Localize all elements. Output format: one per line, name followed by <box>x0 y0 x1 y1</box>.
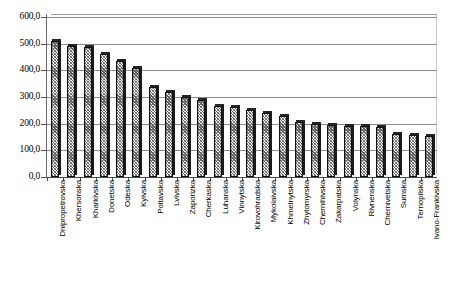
y-tick-label: 400,0 <box>0 64 40 74</box>
bar-body <box>149 87 157 177</box>
bar <box>230 107 238 177</box>
bar-body <box>246 110 254 177</box>
bar <box>132 68 140 177</box>
bar-top-face <box>426 134 435 136</box>
bars-layer <box>47 17 437 177</box>
bar <box>425 136 433 177</box>
bar-top-face <box>393 132 402 134</box>
bar-side-face <box>368 124 370 175</box>
bar-top-face <box>198 98 207 100</box>
bar <box>409 135 417 177</box>
bar <box>100 54 108 177</box>
bar-side-face <box>433 134 435 175</box>
category-label: Kyivska <box>139 180 148 207</box>
bar <box>181 97 189 177</box>
bar <box>67 46 75 177</box>
category-label: Mykolaivska <box>269 180 278 222</box>
bar-side-face <box>417 133 419 175</box>
bar-body <box>360 126 368 177</box>
bar-top-face <box>68 44 77 46</box>
category-label: Ivano-Frankivska <box>432 180 441 239</box>
bar-side-face <box>335 123 337 175</box>
bar-side-face <box>140 66 142 175</box>
y-tick-label: 0,0 <box>0 171 40 181</box>
bar-body <box>409 135 417 177</box>
bar-side-face <box>303 120 305 175</box>
category-label: Chernihivska <box>318 180 327 225</box>
category-label: Sumska <box>399 180 408 208</box>
bar-side-face <box>352 124 354 175</box>
bar-top-face <box>280 114 289 116</box>
bar-body <box>197 100 205 177</box>
bar-body <box>376 127 384 177</box>
bar-top-face <box>410 133 419 135</box>
bar-top-face <box>85 45 94 47</box>
bar-side-face <box>400 132 402 175</box>
category-labels: DnipropetrovskaKhersonskaKharkivskaDonet… <box>47 180 437 288</box>
category-label: Lvivska <box>172 180 181 206</box>
bar-side-face <box>205 98 207 175</box>
bar-top-face <box>52 39 61 41</box>
bar <box>360 126 368 177</box>
bar-side-face <box>75 44 77 175</box>
category-label: Poltavska <box>156 180 165 214</box>
bar-body <box>100 54 108 177</box>
y-tick-label: 300,0 <box>0 91 40 101</box>
bar-body <box>67 46 75 177</box>
category-label: Rivnenska <box>367 180 376 216</box>
bar-body <box>392 134 400 177</box>
category-label: Zakarpatska <box>334 180 343 223</box>
bar-body <box>51 41 59 177</box>
bar-side-face <box>124 59 126 175</box>
bar <box>51 41 59 177</box>
bar <box>295 122 303 177</box>
bar-top-face <box>377 125 386 127</box>
bar-side-face <box>238 105 240 175</box>
bar-side-face <box>319 122 321 175</box>
bar <box>197 100 205 177</box>
category-label: Zaporizka <box>188 180 197 214</box>
category-label: Cherkaska <box>204 180 213 217</box>
bar-top-face <box>101 52 110 54</box>
bar-side-face <box>173 90 175 175</box>
bar <box>376 127 384 177</box>
bar-side-face <box>287 114 289 175</box>
bar-body <box>132 68 140 177</box>
bar-top-face <box>231 105 240 107</box>
bar <box>279 116 287 177</box>
bar <box>214 106 222 177</box>
category-label: Zhytomyrska <box>302 180 311 225</box>
bar <box>327 125 335 177</box>
category-label: Kirovohradska <box>253 180 262 230</box>
bar-body <box>165 92 173 177</box>
bar-side-face <box>108 52 110 175</box>
category-label: Luhanska <box>221 180 230 214</box>
bar-side-face <box>189 95 191 175</box>
bar-body <box>295 122 303 177</box>
bar-top-face <box>263 111 272 113</box>
bar-body <box>279 116 287 177</box>
bar-top-face <box>150 85 159 87</box>
bar-top-face <box>296 120 305 122</box>
bar-top-face <box>215 104 224 106</box>
bar-body <box>311 124 319 177</box>
y-tick-label: 500,0 <box>0 38 40 48</box>
bar-body <box>230 107 238 177</box>
bar <box>165 92 173 177</box>
bar-top-face <box>117 59 126 61</box>
bar-top-face <box>182 95 191 97</box>
category-label: Odeska <box>123 180 132 207</box>
category-label: Khmelnytska <box>286 180 295 225</box>
bar-body <box>181 97 189 177</box>
category-label: Khersonska <box>74 180 83 221</box>
bar <box>311 124 319 177</box>
y-tick-label: 600,0 <box>0 11 40 21</box>
bar-top-face <box>247 108 256 110</box>
bar <box>84 47 92 177</box>
bar-top-face <box>133 66 142 68</box>
bar <box>116 61 124 177</box>
category-label: Vinnytska <box>237 180 246 214</box>
category-label: Chernivetska <box>383 180 392 226</box>
y-tick-label: 100,0 <box>0 144 40 154</box>
bar-side-face <box>59 39 61 175</box>
